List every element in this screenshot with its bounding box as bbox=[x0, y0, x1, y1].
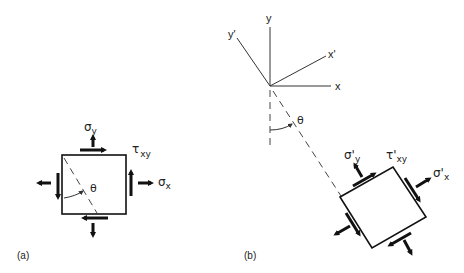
theta-label-b: θ bbox=[297, 114, 304, 127]
panel-a-caption: (a) bbox=[17, 250, 29, 261]
normal-arrow-x-prime-icon bbox=[416, 179, 429, 187]
sigma-y-prime-label: σ'y bbox=[344, 148, 361, 164]
sigma-y-label: σy bbox=[84, 120, 98, 136]
y-prime-axis-line bbox=[237, 38, 270, 86]
normal-arrow-neg-y-prime-icon bbox=[404, 240, 411, 253]
rotated-stress-element bbox=[340, 167, 426, 248]
sigma-x-label: σx bbox=[158, 175, 172, 191]
shear-arrow-bottom-edge-icon bbox=[390, 233, 411, 245]
y-axis-label: y bbox=[266, 12, 272, 24]
tau-xy-prime-label: τ'xy bbox=[386, 148, 408, 164]
y-prime-axis-label: y' bbox=[228, 28, 236, 40]
x-prime-axis-line bbox=[270, 56, 326, 86]
panel-a: σy τxy σx θ (a) bbox=[17, 120, 172, 261]
theta-arc-icon-b bbox=[270, 124, 292, 130]
sigma-x-prime-label: σ'x bbox=[433, 166, 450, 182]
normal-arrow-neg-x-prime-icon bbox=[336, 226, 350, 234]
x-axis-label: x bbox=[335, 80, 341, 92]
x-prime-axis-label: x' bbox=[328, 48, 336, 60]
tau-xy-label: τxy bbox=[132, 142, 152, 159]
panel-b-caption: (b) bbox=[244, 250, 256, 261]
stress-transformation-diagram: σy τxy σx θ (a) y x x' y' θ σ'y bbox=[0, 0, 464, 273]
normal-arrow-y-prime-icon bbox=[355, 165, 362, 177]
normal-direction-dashed-line bbox=[273, 91, 341, 196]
theta-arc-icon bbox=[64, 191, 83, 198]
theta-label: θ bbox=[90, 182, 97, 195]
panel-b: y x x' y' θ σ'y τ'xy σ'x (b) bbox=[228, 12, 450, 261]
